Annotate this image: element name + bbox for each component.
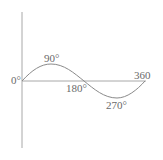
label-trough: 270° bbox=[106, 99, 127, 111]
label-origin: 0° bbox=[11, 74, 21, 86]
label-end: 360 bbox=[134, 69, 151, 81]
sine-diagram: 0° 90° 180° 270° 360 bbox=[0, 0, 163, 160]
label-mid-crossing: 180° bbox=[66, 82, 87, 94]
sine-diagram-svg: 0° 90° 180° 270° 360 bbox=[0, 0, 163, 160]
label-peak: 90° bbox=[44, 52, 59, 64]
